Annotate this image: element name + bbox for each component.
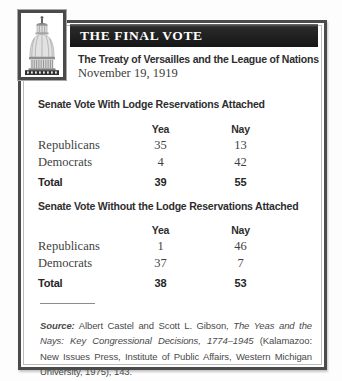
yea-column-header: Yea [118, 123, 203, 135]
nay-value: 42 [203, 155, 278, 170]
vote-table-with-reservations: Yea Nay Republicans 35 13 Democrats 4 42… [38, 120, 278, 190]
total-yea-value: 38 [118, 277, 203, 289]
table-row: Democrats 37 7 [38, 255, 278, 272]
table-row: Republicans 35 13 [38, 137, 278, 154]
total-row: Total 38 53 [38, 274, 278, 291]
table2-title: Senate Vote Without the Lodge Reservatio… [38, 200, 320, 212]
total-label: Total [38, 277, 118, 289]
source-citation: Source: Albert Castel and Scott L. Gibso… [40, 318, 312, 380]
total-yea-value: 39 [118, 176, 203, 188]
row-label: Democrats [38, 155, 118, 170]
nay-column-header: Nay [203, 224, 278, 236]
yea-column-header: Yea [118, 224, 203, 236]
source-authors: Albert Castel and Scott L. Gibson, [75, 320, 234, 331]
total-label: Total [38, 176, 118, 188]
source-divider-rule [40, 303, 95, 304]
total-nay-value: 53 [203, 277, 278, 289]
table-row: Democrats 4 42 [38, 154, 278, 171]
total-nay-value: 55 [203, 176, 278, 188]
figure-subtitle: The Treaty of Versailles and the League … [78, 53, 328, 65]
title-bar: THE FINAL VOTE [70, 24, 318, 47]
nay-value: 13 [203, 138, 278, 153]
figure-page: THE FINAL VOTE [0, 0, 342, 381]
row-label: Republicans [38, 138, 118, 153]
row-label: Democrats [38, 256, 118, 271]
table2-header-row: Yea Nay [38, 221, 278, 238]
row-label: Republicans [38, 239, 118, 254]
capitol-dome-icon [23, 15, 61, 75]
vote-table-without-reservations: Yea Nay Republicans 1 46 Democrats 37 7 … [38, 221, 278, 291]
total-row: Total 39 55 [38, 173, 278, 190]
yea-value: 4 [118, 155, 203, 170]
yea-value: 37 [118, 256, 203, 271]
nay-column-header: Nay [203, 123, 278, 135]
source-label: Source: [40, 320, 75, 331]
figure-title: THE FINAL VOTE [70, 28, 203, 44]
nay-value: 46 [203, 239, 278, 254]
nay-value: 7 [203, 256, 278, 271]
yea-value: 35 [118, 138, 203, 153]
figure-date: November 19, 1919 [78, 66, 178, 81]
table-row: Republicans 1 46 [38, 238, 278, 255]
capitol-icon-box [18, 10, 66, 80]
table1-title: Senate Vote With Lodge Reservations Atta… [38, 98, 320, 110]
yea-value: 1 [118, 239, 203, 254]
table1-header-row: Yea Nay [38, 120, 278, 137]
